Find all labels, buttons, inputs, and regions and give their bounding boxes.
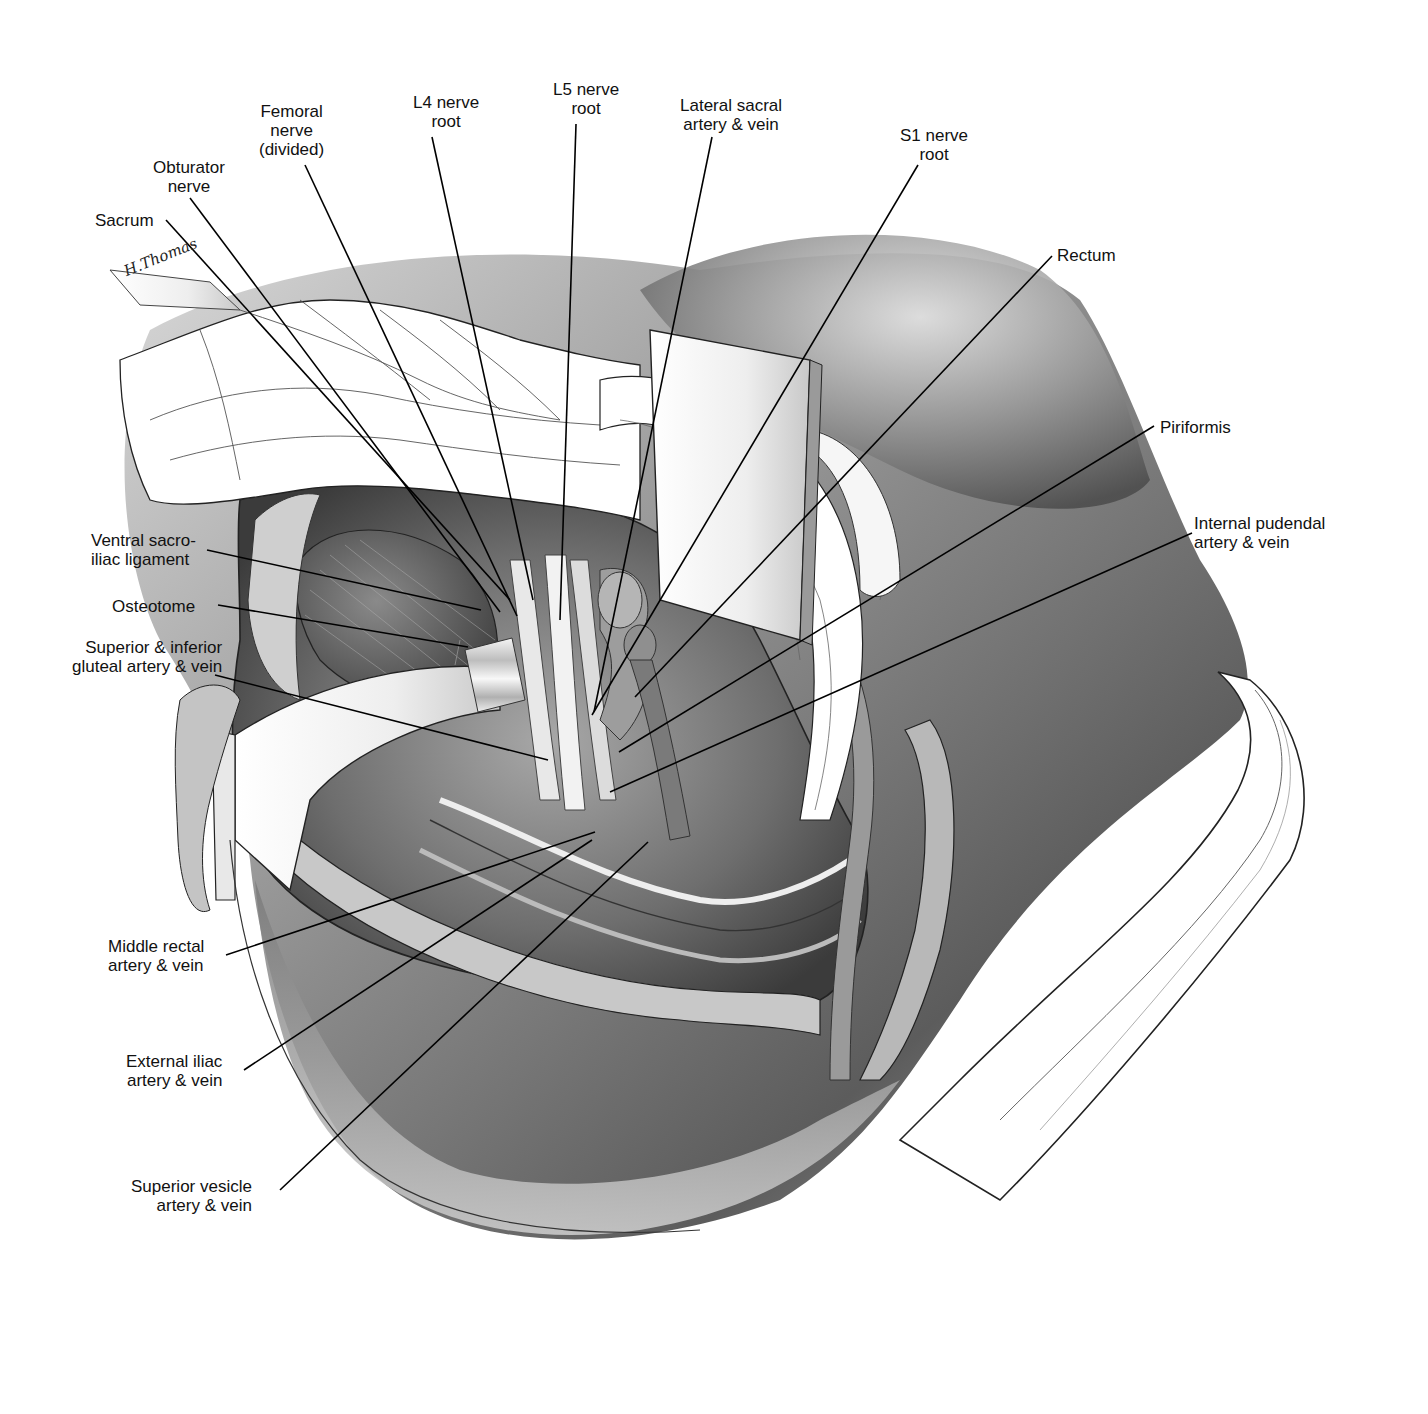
label-femoral-nerve: Femoral nerve (divided) <box>259 102 324 159</box>
anatomical-illustration: Sacrum Obturator nerve Femoral nerve (di… <box>0 0 1428 1414</box>
retractor-blade-vertical <box>650 330 822 645</box>
label-gluteal-artery-vein: Superior & inferior gluteal artery & vei… <box>72 638 222 676</box>
label-rectum: Rectum <box>1057 246 1116 265</box>
label-superior-vesicle-artery-vein: Superior vesicle artery & vein <box>131 1177 252 1215</box>
label-middle-rectal-artery-vein: Middle rectal artery & vein <box>108 937 204 975</box>
label-piriformis: Piriformis <box>1160 418 1231 437</box>
label-internal-pudendal-artery-vein: Internal pudendal artery & vein <box>1194 514 1325 552</box>
label-external-iliac-artery-vein: External iliac artery & vein <box>126 1052 222 1090</box>
label-s1-nerve-root: S1 nerve root <box>900 126 968 164</box>
label-osteotome: Osteotome <box>112 597 195 616</box>
label-sacrum: Sacrum <box>95 211 154 230</box>
label-obturator-nerve: Obturator nerve <box>153 158 225 196</box>
label-ventral-sacroiliac-ligament: Ventral sacro- iliac ligament <box>91 531 196 569</box>
label-l4-nerve-root: L4 nerve root <box>413 93 479 131</box>
label-lateral-sacral-artery-vein: Lateral sacral artery & vein <box>680 96 782 134</box>
label-l5-nerve-root: L5 nerve root <box>553 80 619 118</box>
